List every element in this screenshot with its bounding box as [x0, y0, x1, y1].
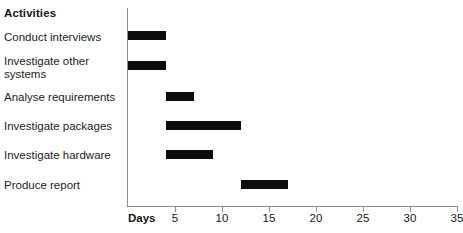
x-axis-tick-label: 10: [216, 212, 229, 224]
gantt-bar: [166, 150, 213, 159]
x-axis-tick-label: 5: [172, 212, 178, 224]
x-axis-tick-label: 30: [404, 212, 417, 224]
x-axis-tick-label: 25: [357, 212, 370, 224]
gantt-bar: [128, 61, 166, 70]
x-axis-title: Days: [128, 212, 156, 224]
gantt-bar: [166, 92, 194, 101]
x-axis-tick-label: 20: [310, 212, 323, 224]
x-axis-tick-label: 35: [451, 212, 463, 224]
horizontal-axis-line: [127, 206, 458, 207]
x-axis-tick-label: 15: [263, 212, 276, 224]
gantt-bar: [241, 180, 288, 189]
gantt-bar: [128, 31, 166, 40]
gantt-bar: [166, 121, 241, 130]
